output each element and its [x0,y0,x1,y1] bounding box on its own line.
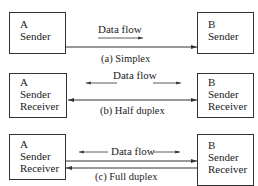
box-role: Sender [208,88,253,100]
box-role: Sender [20,150,65,162]
box-role: Receiver [20,162,65,174]
data-flow-label: Data flow [113,69,157,81]
caption-full-duplex: (c) Full duplex [95,171,157,183]
box-letter: B [208,76,253,88]
box-role: Sender [208,30,253,42]
sender-receiver-b-box: B Sender Receiver [197,134,254,186]
caption-half-duplex: (b) Half duplex [100,105,165,117]
box-letter: A [20,18,65,30]
box-role: Receiver [20,100,66,112]
box-role: Receiver [208,100,253,112]
sender-a-box: A Sender [9,12,66,54]
sender-b-box: B Sender [197,12,254,54]
box-letter: B [208,139,253,151]
sender-receiver-a-box: A Sender Receiver [9,134,66,180]
sender-receiver-b-box: B Sender Receiver [197,73,254,118]
box-role: Sender [20,30,65,42]
sender-receiver-a-box: A Sender Receiver [9,73,67,118]
caption-simplex: (a) Simplex [101,53,150,65]
data-flow-label: Data flow [111,145,155,157]
box-letter: A [20,76,66,88]
box-role: Receiver [208,163,253,175]
box-role: Sender [20,88,66,100]
box-role: Sender [208,151,253,163]
data-flow-label: Data flow [98,23,142,35]
box-letter: B [208,18,253,30]
box-letter: A [20,138,65,150]
